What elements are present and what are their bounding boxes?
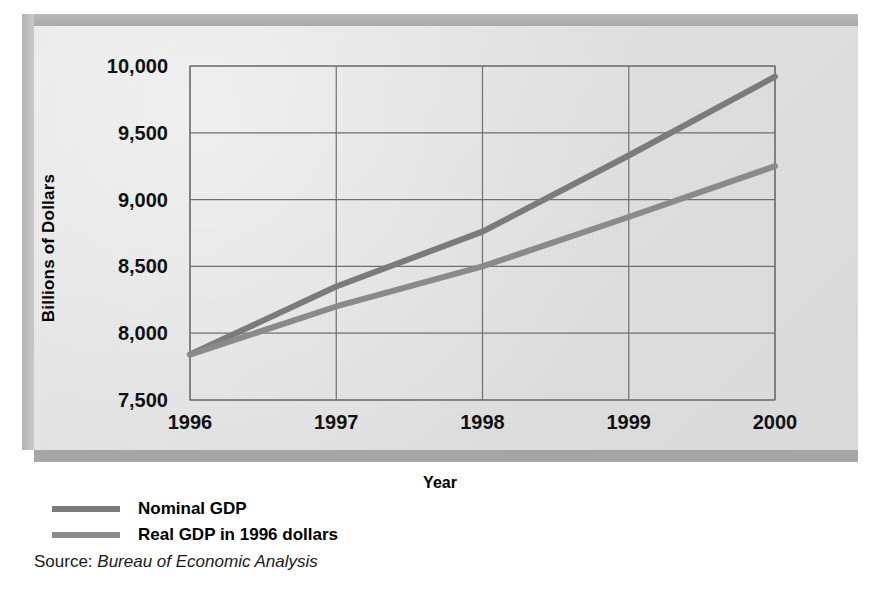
y-tick-label: 10,000	[107, 55, 168, 77]
y-tick-label: 8,500	[118, 255, 168, 277]
source-label: Source:	[34, 552, 93, 571]
x-tick-label: 1999	[607, 411, 652, 433]
y-tick-label: 8,000	[118, 322, 168, 344]
x-tick-labels: 19961997199819992000	[168, 411, 798, 433]
x-tick-label: 1998	[460, 411, 505, 433]
source-value: Bureau of Economic Analysis	[97, 552, 317, 571]
y-tick-label: 9,000	[118, 189, 168, 211]
legend-swatch-icon	[52, 506, 120, 512]
y-tick-label: 7,500	[118, 389, 168, 411]
x-tick-label: 1996	[168, 411, 213, 433]
x-axis-title: Year	[22, 474, 858, 492]
x-tick-label: 2000	[753, 411, 798, 433]
legend-label: Nominal GDP	[138, 499, 247, 519]
chart-legend: Nominal GDP Real GDP in 1996 dollars	[52, 496, 338, 548]
legend-item-nominal-gdp: Nominal GDP	[52, 496, 338, 522]
legend-label: Real GDP in 1996 dollars	[138, 525, 338, 545]
legend-swatch-icon	[52, 532, 120, 538]
legend-item-real-gdp: Real GDP in 1996 dollars	[52, 522, 338, 548]
y-tick-label: 9,500	[118, 122, 168, 144]
x-tick-label: 1997	[314, 411, 359, 433]
y-tick-labels: 10,0009,5009,0008,5008,0007,500	[107, 55, 168, 411]
source-note: Source: Bureau of Economic Analysis	[34, 552, 318, 572]
